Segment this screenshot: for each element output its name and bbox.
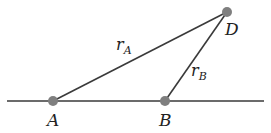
point-d bbox=[222, 7, 232, 17]
geometry-diagram: A B D rA rB bbox=[0, 0, 271, 133]
diagram-canvas: A B D rA rB bbox=[0, 0, 271, 133]
segment-r-a-subscript: A bbox=[123, 44, 132, 57]
segment-r-a-label: rA bbox=[116, 35, 132, 57]
point-a-label: A bbox=[45, 110, 59, 130]
segment-r-b-label: rB bbox=[191, 61, 207, 83]
point-a bbox=[48, 96, 58, 106]
segment-r-b-subscript: B bbox=[198, 70, 207, 83]
segment-r-b bbox=[165, 12, 227, 101]
point-d-label: D bbox=[224, 19, 239, 39]
segment-r-a bbox=[53, 12, 227, 101]
point-b bbox=[160, 96, 170, 106]
point-b-label: B bbox=[158, 110, 172, 130]
